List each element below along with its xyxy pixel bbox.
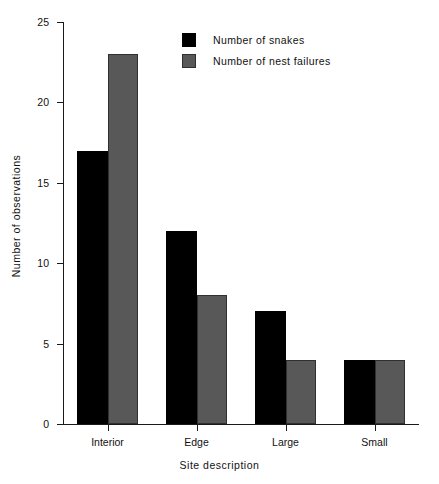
y-axis-line (63, 22, 64, 424)
plot-area: 0510152025 InteriorEdgeLargeSmall Site d… (0, 0, 439, 484)
x-axis-tick (108, 425, 109, 431)
bar-interior-series-1 (108, 54, 139, 424)
y-axis-tick-label: 25 (0, 17, 49, 27)
bar-small-series-1 (375, 360, 406, 424)
legend-item-snakes: Number of snakes (182, 29, 331, 50)
y-axis-tick-label: 10 (0, 258, 49, 268)
x-axis-tick-label: Edge (152, 436, 242, 448)
x-axis-line (63, 424, 419, 425)
x-axis-tick-label: Large (241, 436, 331, 448)
bar-small-series-0 (344, 360, 375, 424)
bar-edge-series-1 (197, 295, 228, 424)
bar-large-series-0 (255, 311, 286, 424)
x-axis-title: Site description (0, 459, 439, 471)
bar-interior-series-0 (77, 151, 108, 424)
x-axis-tick (375, 425, 376, 431)
y-axis-tick (57, 183, 63, 184)
y-axis-title: Number of observations (10, 116, 22, 316)
legend-item-label: Number of nest failures (213, 55, 331, 67)
x-axis-tick-label: Small (330, 436, 420, 448)
legend-item-label: Number of snakes (213, 34, 305, 46)
y-axis-tick (57, 424, 63, 425)
x-axis-tick-label: Interior (63, 436, 153, 448)
y-axis-tick-label: 20 (0, 97, 49, 107)
y-axis-tick-label: 0 (0, 419, 49, 429)
legend: Number of snakes Number of nest failures (182, 29, 331, 71)
bar-edge-series-0 (166, 231, 197, 424)
y-axis-tick (57, 102, 63, 103)
x-axis-tick (197, 425, 198, 431)
x-axis-tick (286, 425, 287, 431)
y-axis-tick (57, 344, 63, 345)
legend-swatch-icon (182, 33, 196, 47)
y-axis-tick-label: 5 (0, 339, 49, 349)
y-axis-tick-label: 15 (0, 178, 49, 188)
bar-chart: 0510152025 InteriorEdgeLargeSmall Site d… (0, 0, 439, 484)
bar-large-series-1 (286, 360, 317, 424)
legend-item-nest-failures: Number of nest failures (182, 50, 331, 71)
legend-swatch-icon (182, 54, 196, 68)
y-axis-tick (57, 263, 63, 264)
y-axis-tick (57, 22, 63, 23)
